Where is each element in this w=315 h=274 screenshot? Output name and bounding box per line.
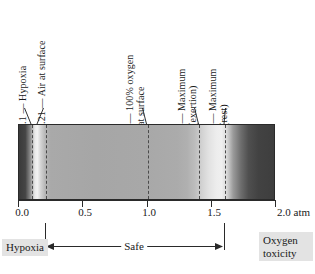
safe-zone-label: Safe <box>121 240 147 252</box>
marker-line-0.1 <box>32 125 33 199</box>
marker-line-1.6 <box>225 125 226 199</box>
callout-line-2: (exertion) <box>188 33 199 126</box>
pressure-gradient-bar <box>18 124 275 200</box>
marker-line-1.4 <box>199 125 200 199</box>
axis-label-1.0: 1.0 <box>142 206 156 218</box>
axis-label-1.5: 1.5 <box>207 206 221 218</box>
callout-label-air-at-surface: 0.21 — Air at surface <box>36 41 47 129</box>
oxygen-toxicity-zone-box: Oxygen toxicity <box>259 232 313 261</box>
oxygen-toxicity-line-1: Oxygen <box>263 234 309 247</box>
axis-label-0.5: 0.5 <box>78 206 92 218</box>
oxygen-toxicity-line-2: toxicity <box>263 247 309 260</box>
callout-label-hypoxia: 0.1 — Hypoxia <box>17 66 28 129</box>
marker-line-1.0 <box>148 125 149 199</box>
oxygen-pressure-diagram: 0.1 — Hypoxia 0.21 — Air at surface 1.0 … <box>0 0 315 274</box>
hypoxia-zone-box: Hypoxia <box>2 239 48 256</box>
arrowhead-right-icon <box>215 243 223 250</box>
gradient-fill <box>19 125 274 199</box>
marker-line-0.21 <box>46 125 47 199</box>
callout-line-2: (rest) <box>219 33 230 126</box>
axis-rule <box>0 196 315 226</box>
axis-label-0.0: 0.0 <box>15 206 29 218</box>
callout-line-2: at surface <box>136 33 147 126</box>
axis-tick-2.0 <box>275 200 276 207</box>
axis-label-2.0-atm: 2.0 atm <box>277 206 310 218</box>
